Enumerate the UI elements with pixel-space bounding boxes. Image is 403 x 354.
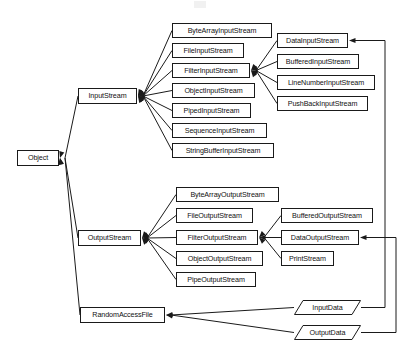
class-node-label: StringBufferInputStream bbox=[186, 147, 261, 154]
edge-sequence_input-to-input_stream bbox=[143, 96, 172, 131]
class-node-data_input: DataInputStream bbox=[277, 33, 348, 48]
class-node-buffered_input: BufferedInputStream bbox=[277, 54, 359, 69]
edge-object_output-to-output_stream bbox=[147, 238, 176, 259]
edge-file_output-to-output_stream bbox=[147, 216, 176, 239]
edge-print_stream-to-filter_output bbox=[264, 238, 281, 259]
class-node-label: PipeOutputStream bbox=[187, 276, 245, 283]
edge-file_input-to-input_stream bbox=[143, 51, 172, 97]
class-node-push_back_input: PushBackInputStream bbox=[277, 96, 368, 111]
class-node-label: OutputData bbox=[310, 329, 346, 336]
edge-input_data-to-random_access_file bbox=[171, 308, 294, 316]
class-node-label: FilterOutputStream bbox=[188, 234, 247, 241]
class-node-label: SequenceInputStream bbox=[185, 127, 255, 134]
class-node-label: RandomAccessFile bbox=[92, 311, 152, 318]
class-node-label: FileInputStream bbox=[183, 47, 232, 54]
class-node-pipe_output: PipeOutputStream bbox=[176, 272, 256, 287]
class-node-label: LineNumberInputStream bbox=[288, 79, 364, 86]
class-node-piped_input: PipedInputStream bbox=[172, 103, 251, 118]
class-node-input_data: InputData bbox=[294, 300, 361, 315]
class-node-object_input: ObjectInputStream bbox=[172, 83, 255, 98]
class-node-filter_input: FilterInputStream bbox=[172, 63, 250, 78]
class-node-byte_array_output: ByteArrayOutputStream bbox=[176, 187, 279, 202]
class-node-line_number_input: LineNumberInputStream bbox=[277, 75, 375, 90]
class-hierarchy-diagram: ObjectInputStreamOutputStreamRandomAcces… bbox=[0, 0, 403, 354]
edge-output_data-to-data_output-arrowhead bbox=[360, 235, 367, 240]
class-node-object: Object bbox=[17, 150, 59, 166]
class-node-label: PrintStream bbox=[289, 255, 326, 262]
edge-buffered_output-to-filter_output bbox=[264, 216, 281, 238]
class-node-label: BufferedInputStream bbox=[286, 58, 350, 65]
class-node-label: InputData bbox=[312, 304, 342, 311]
class-node-print_stream: PrintStream bbox=[281, 251, 334, 266]
class-node-label: ByteArrayOutputStream bbox=[190, 191, 264, 198]
edge-output_data-to-random_access_file bbox=[171, 315, 294, 333]
edge-pipe_output-to-output_stream bbox=[147, 238, 176, 280]
scan-artifact bbox=[194, 1, 206, 8]
edge-byte_array_input-to-input_stream bbox=[143, 31, 172, 97]
class-node-label: DataInputStream bbox=[286, 37, 339, 44]
class-node-label: Object bbox=[28, 154, 48, 161]
class-node-random_access_file: RandomAccessFile bbox=[80, 307, 165, 323]
edge-output_data-to-data_output bbox=[361, 238, 396, 333]
class-node-label: FilterInputStream bbox=[184, 67, 237, 74]
class-node-label: DataOutputStream bbox=[291, 234, 349, 241]
edge-filter_input-to-input_stream bbox=[143, 71, 172, 97]
class-node-label: PipedInputStream bbox=[184, 107, 240, 114]
class-node-label: PushBackInputStream bbox=[288, 100, 358, 107]
class-node-output_data: OutputData bbox=[294, 325, 361, 340]
edge-filter_output-to-output_stream bbox=[147, 238, 176, 239]
edge-input_stream-to-object bbox=[65, 96, 78, 158]
edge-object_input-to-input_stream bbox=[143, 91, 172, 97]
class-node-sequence_input: SequenceInputStream bbox=[172, 123, 267, 138]
class-node-output_stream: OutputStream bbox=[78, 230, 141, 246]
class-node-string_buffer_input: StringBufferInputStream bbox=[172, 143, 274, 158]
class-node-file_input: FileInputStream bbox=[172, 43, 244, 58]
edge-string_buffer_input-to-input_stream bbox=[143, 96, 172, 151]
class-node-label: FileOutputStream bbox=[187, 212, 242, 219]
class-node-buffered_output: BufferedOutputStream bbox=[281, 208, 373, 223]
class-node-label: ObjectInputStream bbox=[184, 87, 242, 94]
edge-input_stream-to-object-arrowhead bbox=[59, 151, 64, 158]
edge-line_number_input-to-filter_input bbox=[256, 71, 277, 83]
class-node-label: InputStream bbox=[88, 92, 126, 99]
class-node-label: ObjectOutputStream bbox=[188, 255, 252, 262]
edge-byte_array_output-to-output_stream bbox=[147, 195, 176, 239]
edge-input_data-to-data_input-arrowhead bbox=[349, 38, 356, 43]
class-node-file_output: FileOutputStream bbox=[176, 208, 253, 223]
class-node-byte_array_input: ByteArrayInputStream bbox=[172, 23, 272, 38]
class-node-input_stream: InputStream bbox=[78, 88, 137, 104]
class-node-data_output: DataOutputStream bbox=[281, 230, 359, 245]
class-node-object_output: ObjectOutputStream bbox=[176, 251, 263, 266]
class-node-label: BufferedOutputStream bbox=[292, 212, 362, 219]
class-node-label: OutputStream bbox=[88, 234, 132, 241]
edge-push_back_input-to-filter_input bbox=[256, 71, 277, 104]
class-node-label: ByteArrayInputStream bbox=[188, 27, 257, 34]
class-node-filter_output: FilterOutputStream bbox=[176, 230, 258, 245]
edge-random_access_file-to-object-arrowhead bbox=[58, 158, 63, 165]
